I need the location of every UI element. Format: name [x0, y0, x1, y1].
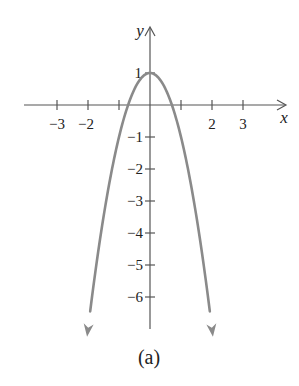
x-tick-labels: −3 −2 2 3 [49, 116, 247, 132]
x-tick-label: −2 [78, 116, 94, 132]
y-tick-label: −3 [127, 193, 143, 209]
curve-arrow-left-icon [84, 323, 94, 337]
x-tick-label: −3 [49, 116, 65, 132]
y-tick-label: −6 [127, 289, 143, 305]
y-tick-label: −2 [127, 161, 143, 177]
x-axis-label: x [279, 108, 288, 127]
x-tick-label: 3 [239, 116, 247, 132]
y-tick-label: −1 [127, 129, 143, 145]
y-tick-label: −5 [127, 257, 143, 273]
parabola-graph: −3 −2 2 3 1 −1 −2 −3 −4 −5 −6 x y (a) [0, 0, 299, 386]
curve-arrow-right-icon [206, 323, 216, 337]
y-axis-label: y [134, 21, 144, 40]
x-tick-label: 2 [208, 116, 216, 132]
y-tick-label: −4 [127, 225, 143, 241]
figure-caption: (a) [138, 346, 160, 369]
